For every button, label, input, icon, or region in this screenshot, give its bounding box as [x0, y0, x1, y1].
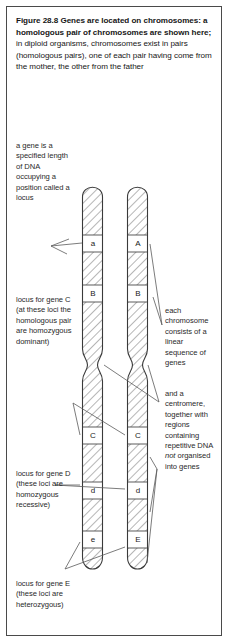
figure-caption-rest: in diploid organisms, chromosomes exist … — [16, 39, 212, 71]
band-label-left-a: a — [80, 239, 106, 248]
band-label-right-c: C — [125, 431, 151, 440]
leader-locus-c-left — [73, 403, 80, 435]
figure-caption: Figure 28.8 Genes are located on chromos… — [16, 15, 214, 73]
annotation-locus-e: locus for gene E (these loci are heteroz… — [16, 579, 92, 610]
annotation-locus-c: locus for gene C (at these loci the homo… — [16, 295, 72, 347]
annotation-centromere: and a centromere, together with regions … — [165, 389, 217, 472]
figure-panel: Figure 28.8 Genes are located on chromos… — [6, 6, 222, 636]
band-label-left-d: d — [80, 486, 106, 495]
band-label-right-e: E — [125, 535, 151, 544]
leader-locus-e — [65, 542, 80, 569]
band-label-left-b: B — [80, 289, 106, 298]
leader-linear-sequence — [150, 244, 162, 325]
band-label-right-a: A — [125, 239, 151, 248]
annotation-locus-d: locus for gene D (these loci are homozyg… — [16, 469, 78, 511]
leader-gene-definition — [51, 243, 82, 246]
band-label-right-b: B — [125, 289, 151, 298]
band-label-left-c: C — [80, 431, 106, 440]
annotation-linear-sequence: each chromosome consists of a linear seq… — [165, 306, 215, 368]
band-label-right-d: d — [125, 486, 151, 495]
annotation-gene-definition: a gene is a specified length of DNA occu… — [16, 141, 72, 203]
annotation-centromere-pre: and a centromere, together with regions … — [165, 389, 213, 450]
annotation-centromere-italic: not — [165, 451, 175, 460]
figure-caption-bold: Figure 28.8 Genes are located on chromos… — [16, 16, 211, 37]
band-label-left-e: e — [80, 535, 106, 544]
leader-centromere — [104, 365, 159, 402]
